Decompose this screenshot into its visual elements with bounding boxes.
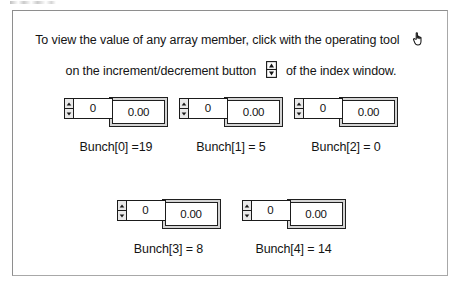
increment-decrement-spinner-bunch-3[interactable] xyxy=(118,201,127,220)
array-control-row-1: 0 0.00 Bunch[0] =19 xyxy=(13,97,449,154)
increment-arrow-bunch-1[interactable] xyxy=(180,99,188,109)
increment-decrement-button-icon xyxy=(266,61,277,78)
array-controls-area: 0 0.00 Bunch[0] =19 xyxy=(13,97,449,256)
increment-arrow-bunch-4[interactable] xyxy=(243,201,251,211)
instructions-block: To view the value of any array member, c… xyxy=(13,31,449,79)
index-value-bunch-0[interactable]: 0 xyxy=(74,99,112,118)
instruction-line-2-text-after: of the index window. xyxy=(286,64,397,78)
array-caption-bunch-2: Bunch[2] = 0 xyxy=(311,140,380,154)
value-indicator-bunch-2: 0.00 xyxy=(339,97,398,127)
index-window-bunch-3[interactable]: 0 xyxy=(117,200,166,221)
value-field-bunch-2: 0.00 xyxy=(342,100,395,124)
array-control-bunch-2[interactable]: 0 0.00 xyxy=(294,97,398,131)
array-control-bunch-0[interactable]: 0 0.00 xyxy=(64,97,168,131)
instruction-line-2-text-before: on the increment/decrement button xyxy=(66,64,257,78)
index-value-bunch-3[interactable]: 0 xyxy=(127,201,165,220)
array-cell-bunch-2: 0 0.00 Bunch[2] = 0 xyxy=(289,97,404,154)
array-control-bunch-1[interactable]: 0 0.00 xyxy=(179,97,283,131)
array-cell-bunch-1: 0 0.00 Bunch[1] = 5 xyxy=(174,97,289,154)
index-value-bunch-1[interactable]: 0 xyxy=(189,99,227,118)
value-field-bunch-3: 0.00 xyxy=(165,202,218,226)
value-text-bunch-1: 0.00 xyxy=(243,106,265,119)
increment-arrow-bunch-3[interactable] xyxy=(118,201,126,211)
value-text-bunch-4: 0.00 xyxy=(305,208,327,221)
array-caption-bunch-4: Bunch[4] = 14 xyxy=(255,242,331,256)
value-field-bunch-1: 0.00 xyxy=(227,100,280,124)
page-frame: To view the value of any array member, c… xyxy=(12,10,448,276)
value-text-bunch-3: 0.00 xyxy=(180,208,202,221)
value-text-bunch-0: 0.00 xyxy=(128,106,150,119)
array-cell-bunch-0: 0 0.00 Bunch[0] =19 xyxy=(59,97,174,154)
hand-cursor-icon xyxy=(410,30,427,47)
index-window-bunch-4[interactable]: 0 xyxy=(242,200,291,221)
instruction-line-1: To view the value of any array member, c… xyxy=(13,31,449,48)
increment-arrow-bunch-0[interactable] xyxy=(65,99,73,109)
array-caption-bunch-0: Bunch[0] =19 xyxy=(80,140,153,154)
decrement-arrow-bunch-3[interactable] xyxy=(118,211,126,220)
decrement-arrow-bunch-1[interactable] xyxy=(180,109,188,118)
index-window-bunch-0[interactable]: 0 xyxy=(64,98,113,119)
decrement-arrow-bunch-4[interactable] xyxy=(243,211,251,220)
instruction-line-2: on the increment/decrement button of the… xyxy=(13,62,449,79)
decrement-arrow-bunch-2[interactable] xyxy=(295,109,303,118)
increment-decrement-spinner-bunch-4[interactable] xyxy=(243,201,252,220)
value-indicator-bunch-4: 0.00 xyxy=(287,199,346,229)
increment-decrement-spinner-bunch-2[interactable] xyxy=(295,99,304,118)
instruction-line-1-text: To view the value of any array member, c… xyxy=(35,33,399,47)
array-control-row-2: 0 0.00 Bunch[3] = 8 xyxy=(13,199,449,256)
array-cell-bunch-3: 0 0.00 Bunch[3] = 8 xyxy=(106,199,231,256)
array-control-bunch-4[interactable]: 0 0.00 xyxy=(242,199,346,233)
value-indicator-bunch-3: 0.00 xyxy=(162,199,221,229)
array-cell-bunch-4: 0 0.00 Bunch[4] = 14 xyxy=(231,199,356,256)
value-field-bunch-4: 0.00 xyxy=(290,202,343,226)
decrement-arrow-bunch-0[interactable] xyxy=(65,109,73,118)
increment-arrow-bunch-2[interactable] xyxy=(295,99,303,109)
array-control-bunch-3[interactable]: 0 0.00 xyxy=(117,199,221,233)
increment-decrement-spinner-bunch-0[interactable] xyxy=(65,99,74,118)
value-text-bunch-2: 0.00 xyxy=(358,106,380,119)
scan-artifact xyxy=(10,1,56,4)
increment-decrement-spinner-bunch-1[interactable] xyxy=(180,99,189,118)
array-caption-bunch-1: Bunch[1] = 5 xyxy=(196,140,265,154)
index-window-bunch-1[interactable]: 0 xyxy=(179,98,228,119)
value-field-bunch-0: 0.00 xyxy=(112,100,165,124)
index-value-bunch-2[interactable]: 0 xyxy=(304,99,342,118)
array-caption-bunch-3: Bunch[3] = 8 xyxy=(134,242,203,256)
value-indicator-bunch-0: 0.00 xyxy=(109,97,168,127)
value-indicator-bunch-1: 0.00 xyxy=(224,97,283,127)
index-value-bunch-4[interactable]: 0 xyxy=(252,201,290,220)
index-window-bunch-2[interactable]: 0 xyxy=(294,98,343,119)
